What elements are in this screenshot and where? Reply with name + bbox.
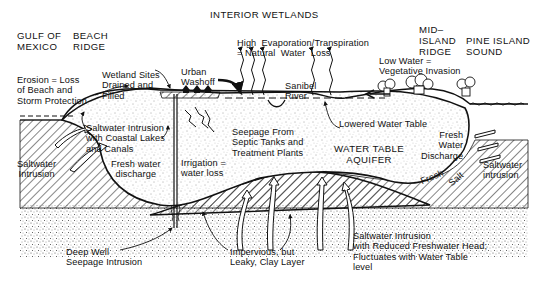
label-saltwater-intrusion-left: Saltwater Intrusion bbox=[17, 159, 56, 180]
region-pine-island-sound: PINE ISLAND SOUND bbox=[466, 35, 530, 57]
label-fresh-water-discharge-right: Fresh Water Discharge bbox=[421, 130, 463, 161]
label-fresh-water-discharge-left: Fresh water discharge bbox=[111, 159, 161, 180]
label-saltwater-intrusion-lakes: Saltwater Intrusion with Coastal Lakes a… bbox=[86, 123, 165, 154]
label-water-table-aquifer: WATER TABLE AQUIFER bbox=[334, 143, 404, 165]
label-wetland-sites: Wetland Sites Drained and Filled bbox=[102, 70, 160, 101]
label-erosion: Erosion = Loss of Beach and Storm Protec… bbox=[17, 75, 87, 106]
label-impervious: Impervious, but Leaky, Clay Layer bbox=[230, 247, 305, 268]
label-evaporation: High Evaporation/Transpiration = Natural… bbox=[237, 38, 369, 59]
label-saltwater-reduced-head: Saltwater Intrusion with Reduced Freshwa… bbox=[353, 231, 487, 273]
label-deep-well: Deep Well Seepage Intrusion bbox=[66, 247, 142, 268]
label-urban-washoff: Urban Washoff bbox=[181, 67, 215, 88]
region-mid-island-ridge: MID– ISLAND RIDGE bbox=[419, 24, 456, 57]
diagram-title: INTERIOR WETLANDS bbox=[210, 9, 319, 20]
label-low-water: Low Water = Vegetative Invasion bbox=[379, 56, 461, 77]
label-saltwater-intrusion-right: Saltwater intrusion bbox=[483, 160, 522, 181]
region-beach-ridge: BEACH RIDGE bbox=[73, 30, 108, 52]
label-lowered-water-table: Lowered Water Table bbox=[339, 119, 427, 129]
label-irrigation: Irrigation = water loss bbox=[181, 158, 226, 179]
label-seepage-septic: Seepage From Septic Tanks and Treatment … bbox=[232, 127, 303, 158]
label-sanibel-river: Sanibel River bbox=[285, 81, 316, 102]
region-gulf-of-mexico: GULF OF MEXICO bbox=[17, 30, 61, 52]
